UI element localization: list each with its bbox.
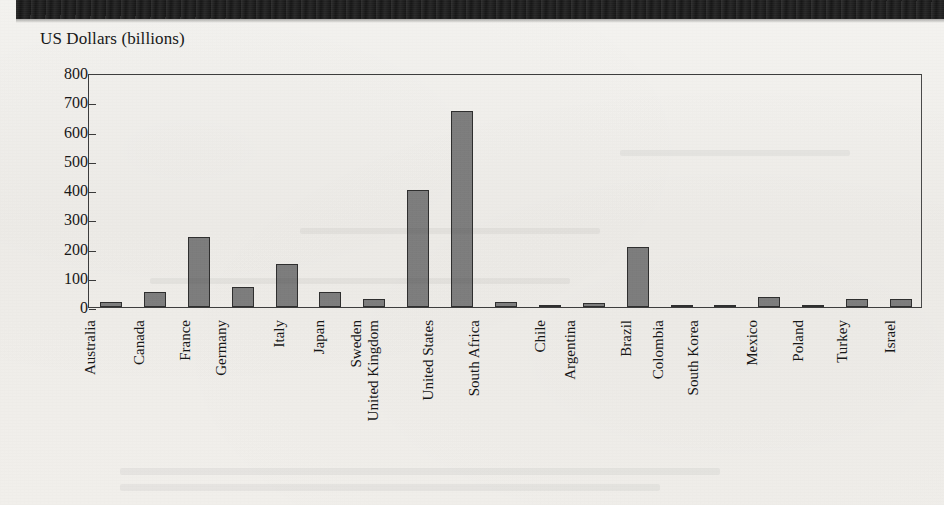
bar-slot [440, 75, 484, 307]
y-axis-tick-label: 600 [36, 125, 88, 141]
x-axis-category-label: Japan [312, 320, 327, 354]
y-axis-tick-label: 300 [36, 212, 88, 228]
bar[interactable] [188, 237, 210, 307]
x-axis-category-label: Chile [533, 320, 548, 353]
bar-slot [265, 75, 309, 307]
bar[interactable] [407, 190, 429, 307]
y-axis-tick-label: 100 [36, 271, 88, 287]
y-axis-tick-label: 500 [36, 154, 88, 170]
bar-slot [396, 75, 440, 307]
x-axis-category-label: Israel [883, 320, 898, 353]
x-axis-category-label: South Korea [687, 320, 702, 395]
bar-slot [133, 75, 177, 307]
x-axis-category-label: Turkey [835, 320, 850, 363]
bar[interactable] [802, 305, 824, 307]
x-axis-label-slot: South Africa [483, 320, 527, 440]
x-axis-category-label: Argentina [563, 320, 578, 380]
y-axis-title: US Dollars (billions) [40, 29, 185, 49]
x-axis-category-label: South Africa [467, 320, 482, 396]
bar-slot [308, 75, 352, 307]
x-axis-label-slot: Poland [790, 320, 834, 440]
bar-slot [352, 75, 396, 307]
y-axis-tick-label: 400 [36, 183, 88, 199]
bar-series [89, 75, 921, 307]
x-axis-category-label: Australia [82, 320, 97, 375]
page-top-black-band [16, 0, 944, 19]
bar[interactable] [232, 287, 254, 307]
x-axis-category-label: Germany [214, 320, 229, 376]
x-axis-label-slot: Argentina [571, 320, 615, 440]
x-axis-category-label: Mexico [745, 320, 760, 366]
page-top-band-shadow [16, 19, 944, 23]
x-axis-label-slot: Canada [132, 320, 176, 440]
scanned-page: US Dollars (billions) 010020030040050060… [0, 0, 944, 505]
bar[interactable] [890, 299, 912, 307]
bar-slot [221, 75, 265, 307]
bar[interactable] [627, 247, 649, 307]
x-axis-label-slot: South Korea [703, 320, 747, 440]
x-axis-label-slot: Israel [878, 320, 922, 440]
x-axis-label-slot: Turkey [834, 320, 878, 440]
x-axis-label-slot: Germany [220, 320, 264, 440]
y-axis-tick-label: 800 [36, 66, 88, 82]
bar[interactable] [714, 305, 736, 307]
x-axis-category-label: Colombia [651, 320, 666, 379]
bar[interactable] [319, 292, 341, 307]
y-axis-tick-mark [89, 309, 96, 310]
bar[interactable] [495, 302, 517, 307]
y-axis-tick-label: 200 [36, 242, 88, 258]
y-axis-tick-labels: 0100200300400500600700800 [36, 63, 88, 308]
bar[interactable] [846, 299, 868, 307]
bar[interactable] [144, 292, 166, 307]
bar-slot [879, 75, 923, 307]
bar[interactable] [451, 111, 473, 307]
bar-slot [616, 75, 660, 307]
bar[interactable] [583, 303, 605, 307]
bar-chart: 0100200300400500600700800 [36, 63, 926, 318]
bar-slot [177, 75, 221, 307]
x-axis-label-slot: Australia [88, 320, 132, 440]
x-axis-category-label: Brazil [618, 320, 633, 357]
bar[interactable] [100, 302, 122, 307]
scan-smudge [120, 468, 720, 475]
bar-slot [528, 75, 572, 307]
x-axis-category-label: Italy [272, 320, 287, 348]
x-axis-category-label: Sweden [350, 320, 365, 368]
x-axis-category-label: France [177, 320, 192, 361]
plot-area [88, 74, 922, 308]
bar[interactable] [671, 305, 693, 307]
x-axis-label-slot: Japan [307, 320, 351, 440]
x-axis-category-labels: AustraliaCanadaFranceGermanyItalyJapanSw… [88, 320, 922, 440]
bar-slot [835, 75, 879, 307]
bar-slot [660, 75, 704, 307]
bar-slot [484, 75, 528, 307]
x-axis-label-slot: Mexico [746, 320, 790, 440]
bar-slot [791, 75, 835, 307]
x-axis-category-label: Canada [131, 320, 146, 365]
x-axis-category-label: United States [421, 320, 436, 400]
y-axis-tick-label: 700 [36, 95, 88, 111]
bar[interactable] [276, 264, 298, 307]
bar[interactable] [539, 305, 561, 307]
x-axis-label-slot: Italy [264, 320, 308, 440]
x-axis-category-label: United Kingdom [367, 320, 382, 421]
bar-slot [89, 75, 133, 307]
bar[interactable] [363, 299, 385, 307]
scan-smudge [120, 484, 660, 491]
bar-slot [747, 75, 791, 307]
y-axis-tick-label: 0 [36, 300, 88, 316]
bar-slot [572, 75, 616, 307]
x-axis-category-label: Poland [791, 320, 806, 362]
bar[interactable] [758, 297, 780, 307]
bar-slot [704, 75, 748, 307]
